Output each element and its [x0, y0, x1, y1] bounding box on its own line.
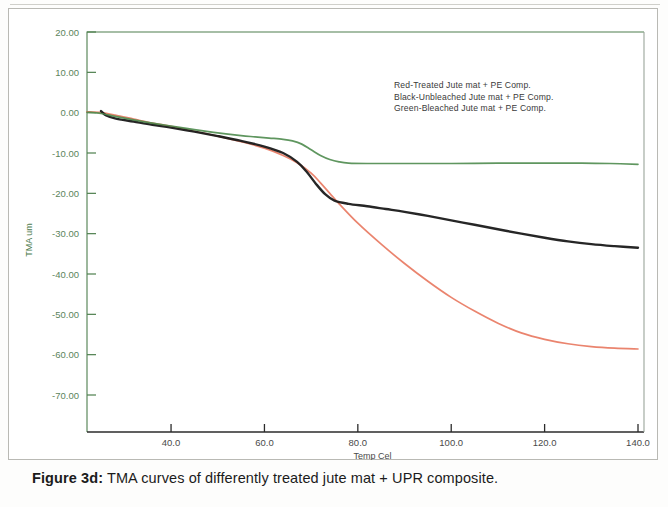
legend-item-3: Green-Bleached Jute mat + PE Comp. [394, 103, 546, 113]
x-axis-label: Temp Cel [353, 451, 391, 460]
x-tick-label: 100.0 [439, 437, 463, 448]
figure-caption-text: TMA curves of differently treated jute m… [103, 470, 498, 486]
x-tick-label: 60.0 [255, 437, 274, 448]
y-tick-label: -60.00 [52, 349, 79, 360]
y-axis-ticks: 20.0010.000.00-10.00-20.00-30.00-40.00-5… [52, 27, 96, 401]
y-tick-label: -30.00 [52, 228, 79, 239]
y-tick-label: -40.00 [52, 269, 79, 280]
y-tick-label: 20.00 [55, 27, 79, 38]
tma-curves-chart: 20.0010.000.00-10.00-20.00-30.00-40.00-5… [0, 0, 668, 460]
figure-page: 20.0010.000.00-10.00-20.00-30.00-40.00-5… [0, 0, 668, 507]
series-line-2 [101, 111, 638, 248]
legend-item-1: Red-Treated Jute mat + PE Comp. [394, 80, 531, 90]
chart-legend: Red-Treated Jute mat + PE Comp.Black-Unb… [394, 80, 553, 113]
figure-caption: Figure 3d: TMA curves of differently tre… [32, 470, 652, 486]
y-tick-label: 0.00 [61, 107, 80, 118]
plot-frame [87, 32, 644, 432]
x-tick-label: 120.0 [533, 437, 557, 448]
y-tick-label: -20.00 [52, 188, 79, 199]
data-series-group [87, 111, 638, 349]
legend-item-2: Black-Unbleached Jute mat + PE Comp. [394, 92, 553, 102]
y-tick-label: 10.00 [55, 67, 79, 78]
series-line-1 [87, 112, 638, 349]
x-tick-label: 140.0 [626, 437, 650, 448]
x-axis-ticks: 40.060.080.0100.0120.0140.0 [162, 424, 650, 448]
figure-label: Figure 3d: [32, 470, 103, 486]
x-tick-label: 80.0 [349, 437, 368, 448]
y-axis-label: TMA um [24, 223, 34, 257]
series-line-3 [87, 112, 638, 164]
chart-container: 20.0010.000.00-10.00-20.00-30.00-40.00-5… [0, 0, 668, 460]
y-tick-label: -10.00 [52, 148, 79, 159]
x-tick-label: 40.0 [162, 437, 181, 448]
y-tick-label: -50.00 [52, 309, 79, 320]
y-tick-label: -70.00 [52, 390, 79, 401]
